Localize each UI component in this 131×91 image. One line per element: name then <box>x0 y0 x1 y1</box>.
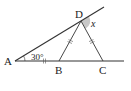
tick-marks-DC <box>89 40 95 44</box>
label-angle-x: x <box>90 18 96 29</box>
label-B: B <box>55 64 62 76</box>
tick-marks-BD <box>68 40 74 44</box>
label-A: A <box>4 55 12 67</box>
ray-AD <box>15 7 104 61</box>
label-D: D <box>75 8 83 20</box>
label-angle-A: 30° <box>31 52 44 62</box>
geometry-diagram: A B C D 30° x <box>0 0 131 91</box>
angle-A-arc <box>24 56 25 61</box>
label-C: C <box>99 64 106 76</box>
